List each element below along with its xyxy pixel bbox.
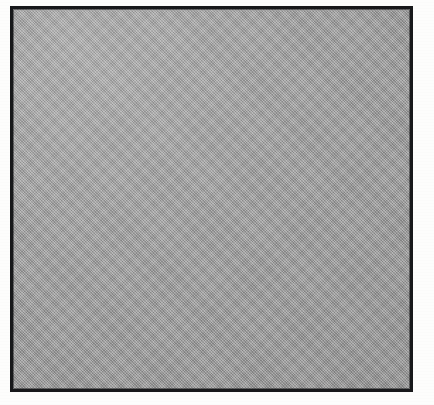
vignette-layer	[13, 9, 410, 389]
figure-frame-border	[10, 6, 413, 392]
scan-noise-layer	[13, 9, 410, 389]
figure-caption	[10, 394, 413, 404]
figure-caption-text	[10, 394, 413, 404]
dither-texture-layer	[13, 9, 410, 389]
gray-plate-fill	[13, 9, 410, 389]
figure-canvas	[0, 0, 434, 405]
